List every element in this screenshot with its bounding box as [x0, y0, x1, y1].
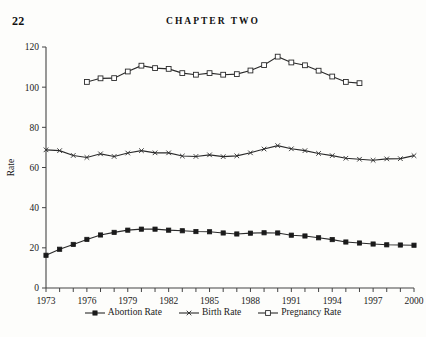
- legend-label: Abortion Rate: [108, 308, 162, 318]
- data-point-marker: [139, 63, 144, 68]
- data-point-marker: [276, 231, 280, 235]
- y-tick-label: 80: [30, 123, 40, 133]
- data-point-marker: [207, 71, 212, 76]
- chart-series-group: [44, 54, 417, 257]
- data-point-marker: [126, 228, 130, 232]
- data-point-marker: [125, 69, 130, 74]
- data-point-marker: [262, 63, 267, 68]
- data-point-marker: [180, 71, 185, 76]
- data-point-marker: [330, 237, 334, 241]
- data-point-marker: [234, 72, 239, 77]
- data-point-marker: [139, 227, 143, 231]
- chart-legend: Abortion RateBirth RatePregnancy Rate: [0, 303, 426, 323]
- data-point-marker: [194, 72, 199, 77]
- y-axis-title: Rate: [6, 159, 16, 176]
- data-point-marker: [153, 66, 158, 71]
- data-point-marker: [112, 230, 116, 234]
- data-point-marker: [221, 72, 226, 77]
- legend-entry: Birth Rate: [179, 308, 241, 318]
- data-point-marker: [262, 231, 266, 235]
- data-point-marker: [166, 66, 171, 71]
- data-point-marker: [289, 60, 294, 65]
- data-point-marker: [316, 236, 320, 240]
- series-abortion-rate: [44, 227, 416, 257]
- open-square-icon: [258, 308, 278, 318]
- legend-label: Pregnancy Rate: [281, 308, 341, 318]
- legend-entry: Abortion Rate: [85, 308, 162, 318]
- y-tick-label: 0: [34, 283, 39, 293]
- data-point-marker: [58, 247, 62, 251]
- data-point-marker: [357, 241, 361, 245]
- data-point-marker: [275, 54, 280, 59]
- data-point-marker: [167, 228, 171, 232]
- data-point-marker: [412, 243, 416, 247]
- data-point-marker: [98, 76, 103, 81]
- data-point-marker: [112, 76, 117, 81]
- y-axis: 020406080100120: [25, 42, 46, 293]
- data-point-marker: [98, 233, 102, 237]
- data-point-marker: [371, 242, 375, 246]
- data-point-marker: [44, 253, 48, 257]
- chart-canvas: 020406080100120 197319761979198219851988…: [0, 34, 426, 309]
- data-point-marker: [385, 243, 389, 247]
- data-point-marker: [84, 80, 89, 85]
- y-tick-label: 120: [25, 42, 40, 52]
- y-tick-label: 20: [30, 243, 40, 253]
- data-point-marker: [153, 227, 157, 231]
- data-point-marker: [330, 74, 335, 79]
- data-point-marker: [248, 231, 252, 235]
- legend-label: Birth Rate: [202, 308, 241, 318]
- data-point-marker: [398, 243, 402, 247]
- cross-marker-icon: [179, 308, 199, 318]
- series-birth-rate: [44, 143, 417, 162]
- data-point-marker: [71, 242, 75, 246]
- data-point-marker: [303, 63, 308, 68]
- data-point-marker: [289, 233, 293, 237]
- data-point-marker: [316, 68, 321, 73]
- data-point-marker: [357, 81, 362, 86]
- chapter-header: CHAPTER TWO: [0, 16, 426, 26]
- data-point-marker: [248, 68, 253, 73]
- y-tick-label: 40: [30, 203, 40, 213]
- data-point-marker: [235, 232, 239, 236]
- data-point-marker: [266, 311, 271, 316]
- y-tick-label: 60: [30, 163, 40, 173]
- data-point-marker: [85, 237, 89, 241]
- line-chart: 020406080100120 197319761979198219851988…: [0, 34, 426, 309]
- data-point-marker: [207, 230, 211, 234]
- data-point-marker: [343, 80, 348, 85]
- data-point-marker: [93, 311, 97, 315]
- series-pregnancy-rate: [84, 54, 361, 85]
- data-point-marker: [194, 229, 198, 233]
- data-point-marker: [180, 229, 184, 233]
- legend-entry: Pregnancy Rate: [258, 308, 341, 318]
- filled-square-icon: [85, 308, 105, 318]
- data-point-marker: [221, 231, 225, 235]
- data-point-marker: [344, 240, 348, 244]
- data-point-marker: [303, 234, 307, 238]
- y-tick-label: 100: [25, 83, 40, 93]
- book-page: 22 CHAPTER TWO 020406080100120 197319761…: [0, 0, 426, 337]
